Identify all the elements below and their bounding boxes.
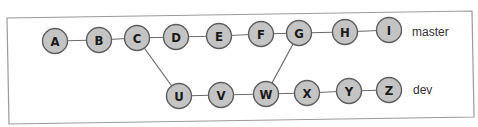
- commit-label: I: [387, 23, 391, 38]
- branch-label-master: master: [412, 25, 449, 39]
- commit-label: A: [50, 34, 59, 49]
- commit-label: X: [302, 86, 311, 101]
- commit-label: D: [171, 30, 181, 45]
- commit-node-g: G: [287, 21, 312, 46]
- commit-label: G: [294, 26, 304, 41]
- commit-node-y: Y: [337, 79, 362, 104]
- commit-node-w: W: [254, 82, 279, 107]
- commit-label: V: [216, 88, 225, 103]
- commit-label: B: [95, 33, 104, 48]
- commit-label: Y: [344, 84, 354, 99]
- commit-node-u: U: [167, 84, 192, 109]
- commit-node-v: V: [209, 83, 234, 108]
- commit-label: E: [215, 29, 223, 44]
- commit-node-x: X: [295, 81, 320, 106]
- commit-node-d: D: [164, 25, 189, 50]
- commit-label: C: [133, 31, 142, 46]
- commit-node-f: F: [249, 22, 274, 47]
- diagram-frame: [7, 11, 474, 124]
- commit-node-h: H: [333, 20, 358, 45]
- commit-node-i: I: [377, 18, 402, 43]
- commit-label: U: [174, 89, 184, 104]
- commit-node-a: A: [43, 29, 68, 54]
- commit-label: Z: [385, 83, 393, 98]
- branch-diagram: A B C D E F G H I U V W X Y Z master dev: [0, 0, 478, 127]
- commit-node-c: C: [125, 26, 150, 51]
- commit-label: F: [257, 27, 265, 42]
- commit-node-e: E: [207, 24, 232, 49]
- commit-label: W: [260, 87, 273, 102]
- branch-label-dev: dev: [413, 83, 432, 97]
- commit-node-z: Z: [377, 78, 402, 103]
- commit-node-b: B: [87, 28, 112, 53]
- commit-label: H: [340, 25, 350, 40]
